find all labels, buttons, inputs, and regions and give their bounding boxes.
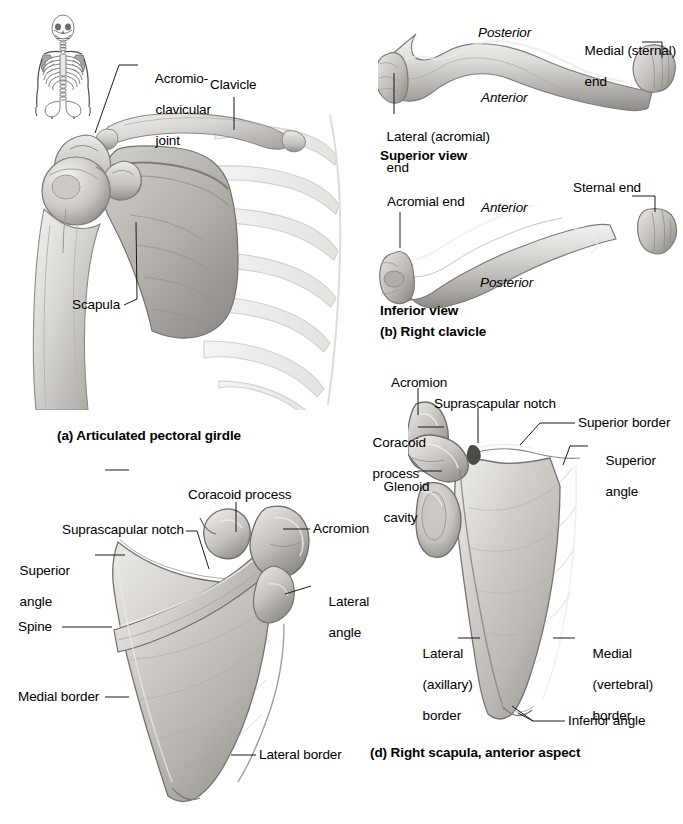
acromioclavicular-joint-line1: Acromio- [155, 71, 208, 86]
label-sternal-end: Sternal end [573, 180, 641, 196]
label-d-superior-angle: Superior angle [591, 437, 656, 515]
label-c-spine: Spine [18, 619, 52, 635]
label-d-suprascapular-notch: Suprascapular notch [434, 396, 556, 412]
label-acromial-end: Acromial end [387, 194, 465, 210]
d-superior-angle-line2: angle [606, 484, 639, 499]
medial-sternal-end-line1: Medial (sternal) [585, 43, 676, 58]
label-superior-anterior: Anterior [481, 90, 527, 106]
d-lateral-border-line1: Lateral [423, 646, 464, 661]
label-scapula: Scapula [72, 297, 120, 313]
label-superior-posterior: Posterior [478, 25, 531, 41]
label-d-inferior-angle: Inferior angle [568, 713, 645, 729]
label-clavicle: Clavicle [210, 77, 256, 93]
scapula-posterior-illustration [88, 504, 320, 816]
label-c-acromion: Acromion [313, 521, 369, 537]
panel-d-caption: (d) Right scapula, anterior aspect [370, 745, 580, 761]
label-medial-sternal-end: Medial (sternal) end [570, 27, 676, 105]
panel-articulated-pectoral-girdle: Acromio- clavicular joint Clavicle Scapu… [0, 0, 345, 450]
label-inferior-posterior: Posterior [480, 275, 533, 291]
label-d-glenoid-cavity: Glenoid cavity [369, 463, 429, 541]
d-coracoid-process-line1: Coracoid [373, 435, 426, 450]
label-d-lateral-axillary-border: Lateral (axillary) border [408, 630, 473, 739]
inferior-view-caption: Inferior view [380, 303, 458, 319]
c-lateral-angle-line1: Lateral [329, 594, 370, 609]
d-medial-border-line2: (vertebral) [593, 677, 653, 692]
label-d-acromion: Acromion [391, 375, 447, 391]
superior-view-caption: Superior view [380, 148, 467, 164]
label-c-superior-angle: Superior angle [5, 547, 70, 625]
d-glenoid-cavity-line1: Glenoid [384, 479, 430, 494]
d-superior-angle-line1: Superior [606, 453, 656, 468]
acromioclavicular-joint-line3: joint [156, 133, 180, 148]
lateral-acromial-end-line1: Lateral (acromial) [387, 129, 490, 144]
label-c-coracoid-process: Coracoid process [188, 487, 291, 503]
c-superior-angle-line1: Superior [20, 563, 70, 578]
c-lateral-angle-line2: angle [329, 625, 362, 640]
acromioclavicular-joint-line2: clavicular [156, 102, 211, 117]
d-lateral-border-line3: border [423, 708, 461, 723]
clavicle-inferior-illustration [378, 205, 678, 310]
panel-a-caption: (a) Articulated pectoral girdle [57, 428, 241, 444]
panel-right-scapula-anterior: Acromion Suprascapular notch Superior bo… [370, 370, 683, 770]
panel-right-scapula-posterior: Coracoid process Suprascapular notch Sup… [0, 470, 365, 824]
panel-b-caption: (b) Right clavicle [380, 324, 486, 340]
label-c-suprascapular-notch: Suprascapular notch [62, 522, 184, 538]
d-lateral-border-line2: (axillary) [423, 677, 473, 692]
label-c-medial-border: Medial border [18, 689, 99, 705]
d-medial-border-line1: Medial [593, 646, 632, 661]
label-d-superior-border: Superior border [578, 415, 670, 431]
label-c-lateral-border: Lateral border [259, 747, 342, 763]
label-acromioclavicular-joint: Acromio- clavicular joint [141, 55, 211, 164]
medial-sternal-end-line2: end [585, 74, 607, 89]
label-c-lateral-angle: Lateral angle [314, 578, 369, 656]
c-superior-angle-line2: angle [20, 594, 53, 609]
panel-right-clavicle: Posterior Anterior Medial (sternal) end … [370, 0, 683, 345]
d-glenoid-cavity-line2: cavity [384, 510, 418, 525]
label-inferior-anterior: Anterior [481, 200, 527, 216]
skeleton-orientation-inset [16, 14, 110, 119]
